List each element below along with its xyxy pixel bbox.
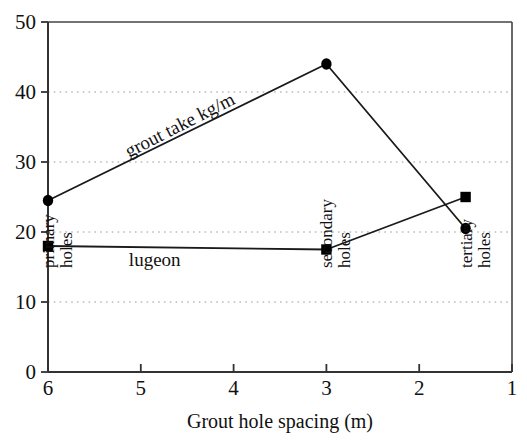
category-label-tertiary-line2: holes xyxy=(475,232,494,268)
marker-grout-take-1 xyxy=(321,58,331,70)
x-axis-title: Grout hole spacing (m) xyxy=(187,410,373,433)
chart-background xyxy=(0,0,527,446)
marker-grout-take-0 xyxy=(43,195,53,207)
x-tick-label-5: 5 xyxy=(136,376,147,400)
y-tick-label-20: 20 xyxy=(15,220,36,244)
series-annotation-lugeon: lugeon xyxy=(129,249,181,270)
y-tick-label-10: 10 xyxy=(15,290,36,314)
marker-lugeon-2 xyxy=(460,192,470,202)
chart-container: 654321 01020304050 grout take kg/mlugeon… xyxy=(0,0,527,446)
x-tick-label-4: 4 xyxy=(228,376,239,400)
y-tick-label-50: 50 xyxy=(15,10,36,34)
category-label-secondary-line1: secondary xyxy=(317,199,336,268)
grout-take-lugeon-line-chart: 654321 01020304050 grout take kg/mlugeon… xyxy=(0,0,527,446)
category-label-primary-line1: primary xyxy=(39,214,58,268)
y-tick-label-40: 40 xyxy=(15,80,36,104)
y-tick-label-30: 30 xyxy=(15,150,36,174)
x-tick-label-1: 1 xyxy=(507,376,518,400)
category-label-secondary-line2: holes xyxy=(335,232,354,268)
category-label-primary-line2: holes xyxy=(57,232,76,268)
category-label-tertiary-line1: tertiary xyxy=(457,218,476,268)
x-tick-label-6: 6 xyxy=(43,376,54,400)
y-tick-label-0: 0 xyxy=(26,360,37,384)
x-tick-label-3: 3 xyxy=(321,376,332,400)
x-tick-label-2: 2 xyxy=(414,376,425,400)
